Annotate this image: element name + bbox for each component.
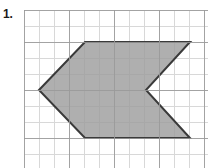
grid-major-lines — [24, 10, 208, 168]
grid-panel — [24, 10, 208, 168]
problem-number-label: 1. — [3, 7, 13, 21]
worksheet-problem: 1. — [0, 0, 208, 168]
